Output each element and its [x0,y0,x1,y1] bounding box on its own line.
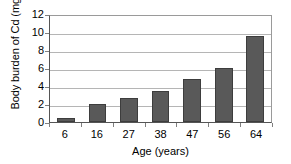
bar-slot [113,16,145,122]
y-axis-tick-mark [45,33,49,34]
x-axis-tick-label: 16 [81,128,113,141]
y-axis-tick-mark [45,15,49,16]
x-axis-tick-label: 6 [49,128,81,141]
bar[interactable] [57,118,75,123]
y-axis-tick-mark [45,69,49,70]
y-axis-tick-labels: 024681012 [20,15,44,123]
x-axis-tick-mark [113,123,114,127]
y-axis-tick-label: 6 [20,63,44,74]
x-axis-tick-label: 64 [240,128,272,141]
bar-slot [82,16,114,122]
y-axis-tick-label: 2 [20,99,44,110]
bar-slot [145,16,177,122]
y-axis-tick-label: 10 [20,27,44,38]
bar[interactable] [152,91,170,123]
x-axis-tick-mark [145,123,146,127]
y-axis-tick-label: 12 [20,9,44,20]
bar[interactable] [183,79,201,122]
x-axis-tick-mark [240,123,241,127]
x-axis-tick-mark [208,123,209,127]
bar-slot [176,16,208,122]
x-axis-tick-mark [49,123,50,127]
bar-chart: Body burden of Cd (mg) 024681012 6162738… [0,0,291,164]
bars-layer [50,16,271,122]
x-axis-tick-label: 27 [113,128,145,141]
x-axis-tick-mark [272,123,273,127]
x-axis-tick-labels: 6162738475664 [49,128,272,141]
y-axis-tick-mark [45,123,49,124]
y-axis-tick-mark [45,51,49,52]
y-axis-tick-mark [45,87,49,88]
bar[interactable] [215,68,233,122]
x-axis-tick-label: 38 [145,128,177,141]
y-axis-tick-label: 4 [20,81,44,92]
bar[interactable] [89,104,107,122]
plot-area [49,15,272,123]
bar[interactable] [246,36,264,122]
x-axis-tick-label: 47 [176,128,208,141]
x-axis-tick-marks [49,123,272,127]
x-axis-title: Age (years) [49,145,272,157]
y-axis-tick-label: 0 [20,117,44,128]
bar-slot [208,16,240,122]
x-axis-tick-mark [81,123,82,127]
bar[interactable] [120,98,138,122]
y-axis-tick-label: 8 [20,45,44,56]
x-axis-tick-label: 56 [208,128,240,141]
x-axis-tick-mark [176,123,177,127]
y-axis-tick-mark [45,105,49,106]
bar-slot [239,16,271,122]
bar-slot [50,16,82,122]
